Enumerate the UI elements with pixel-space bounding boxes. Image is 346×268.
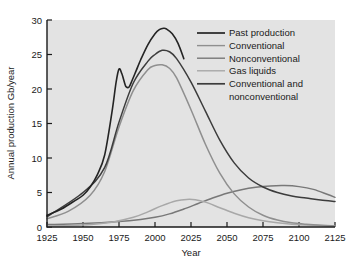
- x-tick-label: 2000: [144, 232, 165, 243]
- x-tick-label: 1950: [72, 232, 93, 243]
- y-axis-title: Annual production Gb/year: [5, 66, 16, 179]
- chart-figure: 192519501975200020252050207521002125 051…: [0, 0, 346, 268]
- y-tick-label: 15: [31, 118, 42, 129]
- x-tick-label: 2025: [180, 232, 201, 243]
- x-tick-label: 2075: [252, 232, 273, 243]
- legend-label-5: nonconventional: [229, 91, 298, 102]
- legend-label-0: Past production: [229, 27, 295, 38]
- x-tick-label: 1975: [108, 232, 129, 243]
- x-tick-labels: 192519501975200020252050207521002125: [36, 232, 345, 243]
- production-line-chart: 192519501975200020252050207521002125 051…: [0, 0, 346, 268]
- x-tick-label: 2050: [216, 232, 237, 243]
- x-axis-title: Year: [181, 247, 200, 258]
- legend-label-2: Nonconventional: [229, 53, 300, 64]
- y-tick-label: 10: [31, 153, 42, 164]
- x-tick-label: 1925: [36, 232, 57, 243]
- legend-label-1: Conventional: [229, 40, 284, 51]
- y-tick-label: 5: [37, 187, 42, 198]
- y-tick-label: 0: [37, 222, 42, 233]
- legend-label-3: Gas liquids: [229, 65, 276, 76]
- x-tick-label: 2100: [288, 232, 309, 243]
- y-tick-label: 30: [31, 15, 42, 26]
- legend-label-4: Conventional and: [229, 78, 303, 89]
- x-tick-label: 2125: [324, 232, 345, 243]
- y-tick-label: 25: [31, 49, 42, 60]
- y-tick-label: 20: [31, 84, 42, 95]
